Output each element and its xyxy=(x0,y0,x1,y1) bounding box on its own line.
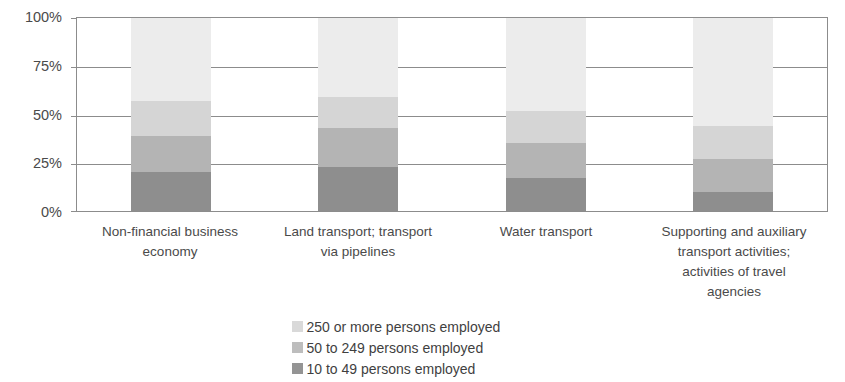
legend-label: 250 or more persons employed xyxy=(307,320,501,334)
bar-segment[interactable] xyxy=(506,111,586,144)
bar-segment[interactable] xyxy=(318,97,398,128)
legend-swatch-icon xyxy=(292,321,303,332)
legend-label: 10 to 49 persons employed xyxy=(307,362,476,376)
bar-segment[interactable] xyxy=(693,159,773,192)
bar-segment[interactable] xyxy=(318,18,398,97)
stacked-bar[interactable] xyxy=(131,18,211,211)
legend-swatch-icon xyxy=(292,342,303,353)
chart-legend: 250 or more persons employed50 to 249 pe… xyxy=(0,316,845,379)
y-tick-0 xyxy=(71,211,77,212)
legend-item[interactable]: 10 to 49 persons employed xyxy=(292,358,554,379)
x-axis-label-line: agencies xyxy=(646,282,822,302)
x-axis-label-line: via pipelines xyxy=(270,242,446,262)
chart-title-cropped xyxy=(0,0,845,6)
legend-item[interactable]: 50 to 249 persons employed xyxy=(292,337,554,358)
y-axis-tick-label: 50% xyxy=(0,107,68,122)
x-axis-category-label: Non-financial businesseconomy xyxy=(76,222,264,302)
bar-segment[interactable] xyxy=(693,126,773,159)
stacked-bar[interactable] xyxy=(693,18,773,211)
plot-area xyxy=(76,17,828,212)
bar-slot xyxy=(640,18,828,211)
stacked-bar[interactable] xyxy=(506,18,586,211)
x-axis-label-line: Water transport xyxy=(458,222,634,242)
x-axis-category-label: Supporting and auxiliarytransport activi… xyxy=(640,222,828,302)
x-axis-labels: Non-financial businesseconomyLand transp… xyxy=(76,222,828,302)
bar-segment[interactable] xyxy=(693,192,773,211)
x-axis-label-line: Non-financial business xyxy=(82,222,258,242)
y-axis-tick-label: 75% xyxy=(0,59,68,74)
bar-segment[interactable] xyxy=(131,18,211,101)
bar-segment[interactable] xyxy=(506,178,586,211)
y-axis-tick-label: 100% xyxy=(0,10,68,25)
bar-segment[interactable] xyxy=(131,172,211,211)
bar-segment[interactable] xyxy=(318,128,398,167)
bar-group xyxy=(77,18,827,211)
bar-segment[interactable] xyxy=(131,136,211,173)
x-axis-category-label: Land transport; transportvia pipelines xyxy=(264,222,452,302)
y-axis-tick-label: 25% xyxy=(0,156,68,171)
stacked-bar-chart: 100% 75% 50% 25% 0% Non-financial busine… xyxy=(0,0,845,382)
bar-segment[interactable] xyxy=(506,143,586,178)
bar-slot xyxy=(265,18,453,211)
x-axis-label-line: transport activities; xyxy=(646,242,822,262)
x-axis-category-label: Water transport xyxy=(452,222,640,302)
y-axis-tick-label: 0% xyxy=(0,205,68,220)
x-axis-label-line: Land transport; transport xyxy=(270,222,446,242)
bar-slot xyxy=(452,18,640,211)
bar-slot xyxy=(77,18,265,211)
legend-item[interactable]: 250 or more persons employed xyxy=(292,316,554,337)
bar-segment[interactable] xyxy=(318,167,398,211)
x-axis-label-line: activities of travel xyxy=(646,262,822,282)
bar-segment[interactable] xyxy=(693,18,773,126)
legend-label: 50 to 249 persons employed xyxy=(307,341,484,355)
stacked-bar[interactable] xyxy=(318,18,398,211)
bar-segment[interactable] xyxy=(131,101,211,136)
x-axis-label-line: economy xyxy=(82,242,258,262)
bar-segment[interactable] xyxy=(506,18,586,111)
legend-swatch-icon xyxy=(292,363,303,374)
x-axis-label-line: Supporting and auxiliary xyxy=(646,222,822,242)
